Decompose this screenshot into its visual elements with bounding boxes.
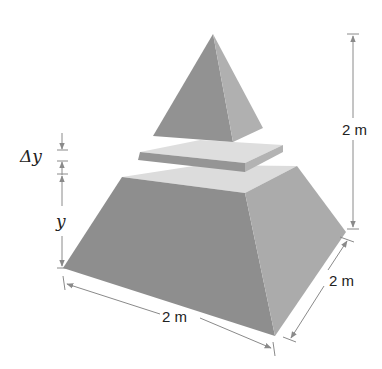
height-label: 2 m — [342, 121, 367, 138]
delta-y-label: Δy — [19, 146, 42, 166]
base-depth-label: 2 m — [329, 272, 354, 289]
y-dimension: y — [55, 174, 68, 268]
base-width-label: 2 m — [162, 308, 187, 325]
height-dimension: 2 m — [342, 34, 367, 229]
pyramid-diagram: 2 m Δy y 2 m 2 m — [0, 0, 382, 369]
frustum — [63, 165, 346, 336]
delta-y-dimension: Δy — [19, 133, 68, 175]
y-label: y — [55, 211, 66, 231]
top-pyramid — [153, 34, 263, 142]
